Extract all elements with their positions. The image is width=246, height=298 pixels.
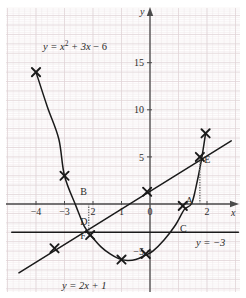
horizontal-line-equation-label: y = −3 (195, 237, 225, 248)
parabola-equation-label: y = x2 + 3x − 6 (42, 39, 107, 53)
y-tick-label: 10 (134, 104, 144, 115)
point-label-E: E (204, 154, 210, 165)
plot-background (0, 0, 246, 298)
y-tick-label: 15 (134, 57, 144, 68)
y-axis-label: y (139, 6, 145, 17)
y-tick-label: 5 (139, 152, 144, 163)
point-label-B: B (80, 186, 87, 197)
x-tick-label: 2 (205, 206, 210, 217)
x-tick-label: 2 (91, 206, 96, 217)
coordinate-grid-plot: −4−3210215105−5 ABCDEF x y y = x2 + 3x −… (0, 0, 246, 298)
line-equation-label: y = 2x + 1 (61, 280, 107, 291)
x-tick-label: 0 (148, 206, 153, 217)
point-label-A: A (186, 195, 194, 206)
point-label-D: D (80, 216, 87, 227)
point-label-C: C (180, 223, 187, 234)
x-axis-label: x (230, 207, 236, 218)
graph-figure: −4−3210215105−5 ABCDEF x y y = x2 + 3x −… (0, 0, 246, 298)
x-tick-label: −3 (59, 206, 70, 217)
point-label-F: F (80, 230, 86, 241)
x-tick-label: −4 (31, 206, 42, 217)
